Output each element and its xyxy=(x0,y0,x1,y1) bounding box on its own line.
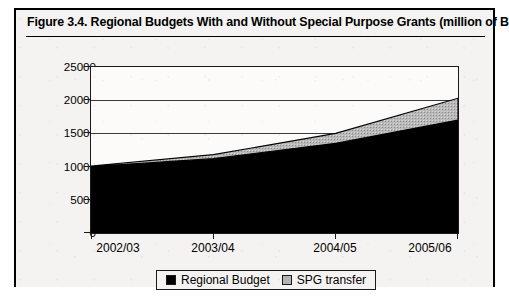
figure-caption: Figure 3.4. Regional Budgets With and Wi… xyxy=(16,10,493,36)
plot-box xyxy=(90,66,459,234)
x-axis: 2002/03 2003/04 2004/05 2005/06 xyxy=(90,233,459,263)
y-axis: 25000 20000 15000 10000 5000 0 xyxy=(16,66,96,233)
x-tick-label: 2002/03 xyxy=(96,241,139,255)
chart-area: 25000 20000 15000 10000 5000 0 xyxy=(16,37,493,287)
stacked-area-plot xyxy=(91,67,458,233)
legend-item-regional-budget: Regional Budget xyxy=(166,273,270,287)
legend-label: SPG transfer xyxy=(297,273,366,287)
chart-legend: Regional Budget SPG transfer xyxy=(156,270,376,290)
x-tick-label: 2005/06 xyxy=(408,241,451,255)
x-tick-mark xyxy=(457,233,458,239)
regional-budget-swatch-icon xyxy=(166,275,176,285)
area-series-regional-budget xyxy=(91,120,458,233)
x-tick-mark xyxy=(335,233,336,239)
legend-label: Regional Budget xyxy=(181,273,270,287)
spg-transfer-swatch-icon xyxy=(282,275,292,285)
legend-item-spg-transfer: SPG transfer xyxy=(282,273,366,287)
x-tick-mark xyxy=(213,233,214,239)
figure-frame: Figure 3.4. Regional Budgets With and Wi… xyxy=(14,8,495,287)
x-tick-label: 2004/05 xyxy=(313,241,356,255)
x-tick-mark xyxy=(91,233,92,239)
x-tick-label: 2003/04 xyxy=(191,241,234,255)
